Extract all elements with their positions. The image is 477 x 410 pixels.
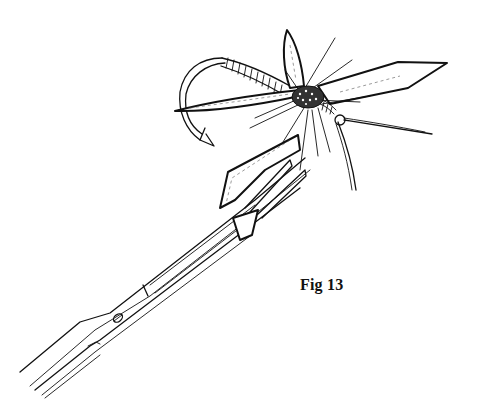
top-wing (284, 30, 304, 88)
fly-and-scissors-drawing (0, 0, 477, 410)
tails (336, 118, 432, 190)
body-segments (221, 58, 290, 96)
thorax (292, 86, 324, 108)
figure-caption: Fig 13 (300, 276, 343, 294)
left-wing (175, 90, 300, 111)
right-wing (318, 62, 447, 104)
